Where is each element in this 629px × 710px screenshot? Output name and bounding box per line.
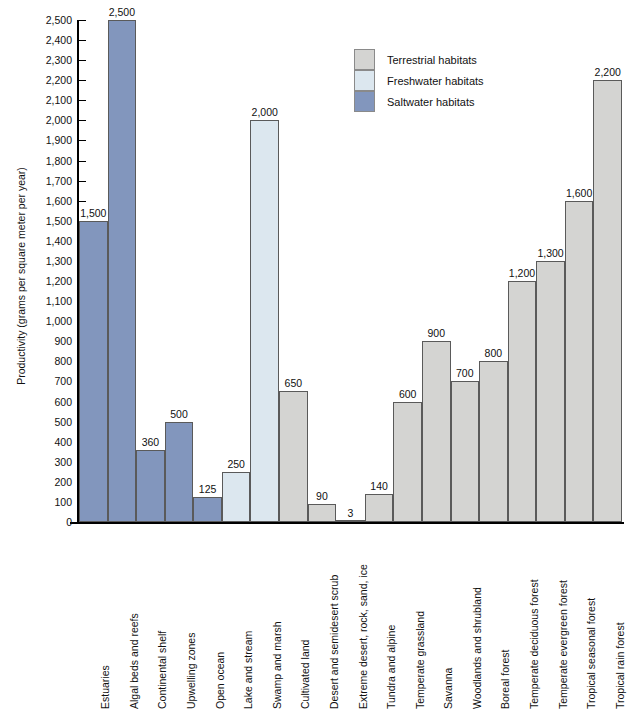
bar[interactable] — [136, 450, 165, 522]
y-axis-tick-label: 400 — [28, 437, 72, 447]
y-axis-tick-label: 300 — [28, 457, 72, 467]
bar-value-label: 1,600 — [550, 188, 609, 199]
x-axis-category-label-text: Continental shelf — [155, 529, 169, 709]
x-axis-category-label: Cultivated land — [298, 529, 312, 709]
y-axis-tick-label-wrap: 800 — [24, 356, 72, 366]
x-axis-category-label-text: Upwelling zones — [184, 529, 198, 709]
y-axis-tick-label-wrap: 2,500 — [24, 15, 72, 25]
x-axis-line — [70, 522, 624, 524]
bar-value-label: 125 — [178, 484, 237, 495]
bar-value-label: 90 — [293, 491, 352, 502]
x-axis-category-label: Tundra and alpine — [384, 529, 398, 709]
y-axis-tick-label: 2,400 — [28, 35, 72, 45]
bar[interactable] — [593, 80, 622, 522]
y-axis-tick-label: 100 — [28, 497, 72, 507]
x-axis-category-label: Lake and stream — [241, 529, 255, 709]
y-axis-tick-label-wrap: 100 — [24, 497, 72, 507]
bar[interactable] — [393, 402, 422, 522]
y-axis-tick-label: 2,000 — [28, 115, 72, 125]
bar-value-label: 700 — [436, 368, 495, 379]
x-axis-category-label-text: Tropical rain forest — [613, 529, 627, 709]
x-axis-category-label-text: Extreme desert, rock, sand, ice — [356, 529, 370, 709]
y-axis-tick-label-wrap: 400 — [24, 437, 72, 447]
y-axis-tick-label-wrap: 700 — [24, 376, 72, 386]
bar-value-label: 2,000 — [235, 107, 294, 118]
bar[interactable] — [536, 261, 565, 522]
bar-value-label: 1,300 — [521, 248, 580, 259]
y-axis-tick-label-wrap: 1,900 — [24, 135, 72, 145]
x-axis-category-label: Desert and semidesert scrub — [327, 529, 341, 709]
x-axis-category-label-text: Temperate evergreen forest — [556, 529, 570, 709]
x-axis-category-label-text: Algal beds and reefs — [127, 529, 141, 709]
y-axis-tick-label-wrap: 1,800 — [24, 156, 72, 166]
legend: Terrestrial habitatsFreshwater habitatsS… — [354, 49, 584, 112]
bar-value-label: 2,500 — [93, 7, 152, 18]
legend-item-freshwater[interactable]: Freshwater habitats — [354, 70, 584, 91]
y-axis-tick-label-wrap: 1,000 — [24, 316, 72, 326]
x-axis-category-label: Open ocean — [213, 529, 227, 709]
bar[interactable] — [79, 221, 108, 522]
bar-value-label: 3 — [321, 508, 380, 519]
y-axis-tick-label: 1,300 — [28, 256, 72, 266]
bar-value-label: 250 — [207, 459, 266, 470]
y-axis-tick-label: 1,600 — [28, 196, 72, 206]
bar[interactable] — [336, 520, 365, 522]
x-axis-category-label-text: Swamp and marsh — [270, 529, 284, 709]
x-axis-category-label-text: Boreal forest — [498, 529, 512, 709]
y-axis-tick-label: 1,200 — [28, 276, 72, 286]
x-axis-category-label-text: Tropical seasonal forest — [584, 529, 598, 709]
y-axis-tick-label-wrap: 2,200 — [24, 75, 72, 85]
bar-value-label: 500 — [150, 409, 209, 420]
bar-value-label: 2,200 — [578, 67, 629, 78]
x-axis-category-label: Boreal forest — [498, 529, 512, 709]
legend-swatch-icon — [354, 91, 375, 112]
x-axis-category-label-text: Temperate deciduous forest — [527, 529, 541, 709]
y-axis-tick-label: 1,900 — [28, 135, 72, 145]
y-axis-tick-label-wrap: 1,200 — [24, 276, 72, 286]
bar-value-label: 600 — [378, 389, 437, 400]
x-axis-category-label: Savanna — [441, 529, 455, 709]
y-axis-tick-label-wrap: 1,600 — [24, 196, 72, 206]
y-axis-tick-label: 1,700 — [28, 176, 72, 186]
y-axis-tick-label-wrap: 1,300 — [24, 256, 72, 266]
bar[interactable] — [479, 361, 508, 522]
legend-swatch-icon — [354, 49, 375, 70]
legend-item-saltwater[interactable]: Saltwater habitats — [354, 91, 584, 112]
y-axis-tick-label: 600 — [28, 397, 72, 407]
y-axis-tick-label: 2,500 — [28, 15, 72, 25]
bar-value-label: 1,500 — [64, 208, 123, 219]
y-axis-tick-label-wrap: 1,400 — [24, 236, 72, 246]
y-axis-tick-label: 1,800 — [28, 156, 72, 166]
x-axis-category-label: Woodlands and shrubland — [470, 529, 484, 709]
x-axis-category-label: Swamp and marsh — [270, 529, 284, 709]
bar-value-label: 140 — [350, 481, 409, 492]
legend-swatch-icon — [354, 70, 375, 91]
bar[interactable] — [222, 472, 251, 522]
bar[interactable] — [451, 381, 480, 522]
x-axis-category-label-text: Cultivated land — [298, 529, 312, 709]
y-axis-tick-label-wrap: 0 — [24, 517, 72, 527]
y-axis-tick-label-wrap: 2,100 — [24, 95, 72, 105]
y-axis-tick-label: 500 — [28, 417, 72, 427]
y-axis-tick-label-wrap: 2,400 — [24, 35, 72, 45]
bar-value-label: 1,200 — [493, 268, 552, 279]
y-axis-tick-label: 2,300 — [28, 55, 72, 65]
y-axis-tick-label: 200 — [28, 477, 72, 487]
legend-item-label: Terrestrial habitats — [387, 54, 477, 66]
y-axis-tick-label: 2,200 — [28, 75, 72, 85]
x-axis-category-label-text: Temperate grassland — [413, 529, 427, 709]
bar[interactable] — [279, 391, 308, 522]
y-axis-tick-label: 2,100 — [28, 95, 72, 105]
productivity-bar-chart: Productivity (grams per square meter per… — [0, 0, 629, 710]
legend-item-label: Saltwater habitats — [387, 96, 474, 108]
bar[interactable] — [508, 281, 537, 522]
bar[interactable] — [193, 497, 222, 522]
x-axis-category-label: Temperate evergreen forest — [556, 529, 570, 709]
bar-value-label: 800 — [464, 348, 523, 359]
y-axis-tick-label: 1,100 — [28, 296, 72, 306]
bar-value-label: 650 — [264, 378, 323, 389]
y-axis-tick-label-wrap: 2,300 — [24, 55, 72, 65]
y-axis-tick-label: 700 — [28, 376, 72, 386]
x-axis-category-label: Upwelling zones — [184, 529, 198, 709]
legend-item-terrestrial[interactable]: Terrestrial habitats — [354, 49, 584, 70]
